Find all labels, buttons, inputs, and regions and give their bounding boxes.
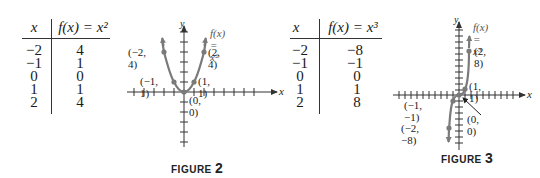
- caption-number: 3: [485, 150, 493, 166]
- y-axis-label: y: [454, 14, 458, 25]
- point-label: (0, 0): [467, 113, 479, 137]
- figure-3-caption: FIGURE 3: [441, 150, 493, 166]
- point-label: (2, 8): [474, 45, 486, 69]
- y-axis-label: y: [180, 18, 184, 29]
- x-axis-label: x: [527, 88, 532, 100]
- point-label: (−2, 4): [128, 46, 146, 70]
- point-label: (1, 1): [469, 80, 481, 104]
- caption-word: FIGURE: [441, 154, 482, 165]
- point-label: (2, 4): [208, 46, 220, 70]
- point-label: (−1, 1): [140, 75, 158, 99]
- caption-number: 2: [215, 160, 223, 176]
- caption-word: FIGURE: [171, 164, 212, 175]
- point-label: (−2, −8): [401, 122, 419, 146]
- point-label: (1, 1): [198, 75, 210, 99]
- x-axis-label: x: [279, 85, 284, 97]
- figure-2-caption: FIGURE 2: [171, 160, 223, 176]
- point-label: (−1, −1): [404, 99, 422, 123]
